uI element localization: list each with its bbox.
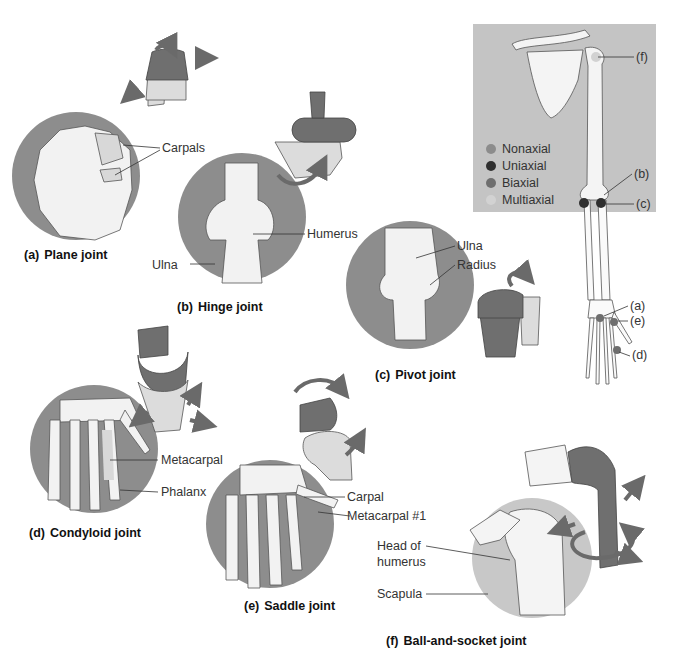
label-metacarpal-1: Metacarpal #1 (347, 509, 426, 523)
biaxial-dot-icon (486, 178, 496, 188)
caption-title: Hinge joint (198, 300, 263, 314)
saddle-joint-illustration (206, 380, 360, 588)
marker-b: (b) (634, 167, 649, 181)
caption-title: Condyloid joint (50, 526, 141, 540)
hinge-joint-illustration (178, 92, 356, 283)
caption-title: Pivot joint (395, 368, 455, 382)
caption-condyloid-joint: (d)Condyloid joint (29, 526, 141, 540)
marker-a: (a) (630, 299, 645, 313)
label-head-of: Head of (377, 539, 421, 553)
label-radius: Radius (457, 258, 496, 272)
nonaxial-dot-icon (486, 144, 496, 154)
label-metacarpal: Metacarpal (161, 453, 223, 467)
marker-c: (c) (636, 197, 651, 211)
caption-plane-joint: (a)Plane joint (24, 248, 107, 262)
marker-e: (e) (630, 314, 645, 328)
legend-label: Nonaxial (502, 142, 551, 156)
caption-title: Saddle joint (264, 599, 335, 613)
label-humerus-f: humerus (377, 555, 426, 569)
caption-hinge-joint: (b)Hinge joint (177, 300, 263, 314)
caption-title: Plane joint (44, 248, 107, 262)
label-ulna-c: Ulna (457, 239, 483, 253)
caption-pivot-joint: (c)Pivot joint (375, 368, 456, 382)
caption-prefix: (a) (24, 248, 39, 262)
legend-item-biaxial: Biaxial (486, 174, 554, 191)
legend-item-nonaxial: Nonaxial (486, 140, 554, 157)
legend-label: Multiaxial (502, 193, 554, 207)
label-phalanx: Phalanx (161, 485, 206, 499)
caption-prefix: (f) (386, 634, 399, 648)
legend-item-multiaxial: Multiaxial (486, 191, 554, 208)
caption-prefix: (c) (375, 368, 390, 382)
caption-prefix: (b) (177, 300, 193, 314)
legend-item-uniaxial: Uniaxial (486, 157, 554, 174)
caption-prefix: (e) (244, 599, 259, 613)
marker-d: (d) (632, 348, 647, 362)
pivot-joint-illustration (346, 221, 540, 357)
caption-title: Ball-and-socket joint (404, 634, 527, 648)
legend-label: Biaxial (502, 176, 539, 190)
label-carpal: Carpal (347, 490, 384, 504)
label-humerus: Humerus (307, 227, 358, 241)
joint-illustrations (0, 0, 675, 669)
caption-prefix: (d) (29, 526, 45, 540)
legend: Nonaxial Uniaxial Biaxial Multiaxial (486, 140, 554, 208)
label-ulna-b: Ulna (152, 258, 178, 272)
label-carpals: Carpals (162, 141, 205, 155)
caption-saddle-joint: (e)Saddle joint (244, 599, 335, 613)
label-scapula: Scapula (377, 587, 422, 601)
ball-socket-joint-illustration (426, 445, 638, 618)
legend-label: Uniaxial (502, 159, 546, 173)
marker-f: (f) (636, 50, 648, 64)
multiaxial-dot-icon (486, 195, 496, 205)
uniaxial-dot-icon (486, 161, 496, 171)
caption-ball-socket-joint: (f)Ball-and-socket joint (386, 634, 526, 648)
